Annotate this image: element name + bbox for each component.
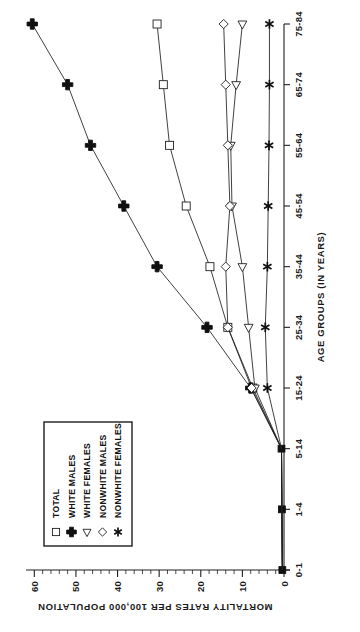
x-tick-label: 45-54 xyxy=(293,193,304,219)
series-line xyxy=(265,24,282,570)
series-nonwhite-males xyxy=(219,19,282,570)
square-marker xyxy=(153,20,161,28)
plus-marker xyxy=(119,201,129,211)
marker-triangle-left-open xyxy=(244,324,253,332)
plus-marker xyxy=(202,322,212,332)
legend: TOTALWHITE MALESWHITE FEMALESNONWHITE MA… xyxy=(44,422,132,546)
diamond-marker xyxy=(221,80,230,89)
x-tick-label: 1-4 xyxy=(293,502,304,517)
marker-asterisk xyxy=(264,201,272,211)
x-tick-label: 55-64 xyxy=(293,132,304,158)
marker-triangle-left-open xyxy=(232,82,241,90)
series-line xyxy=(224,24,283,570)
x-tick-label: 15-24 xyxy=(293,375,304,401)
marker-diamond-open xyxy=(221,80,230,89)
marker-asterisk xyxy=(265,80,273,90)
series-total xyxy=(153,20,286,573)
marker-asterisk xyxy=(263,262,271,272)
plus-marker xyxy=(152,261,162,271)
rotated-figure-container: 0-11-45-1415-2425-3435-4445-5455-6465-74… xyxy=(0,0,360,632)
marker-asterisk xyxy=(263,383,271,393)
marker-plus xyxy=(202,322,212,332)
marker-square-open xyxy=(52,528,59,535)
marker-square-open xyxy=(182,202,190,210)
y-tick-label: 30 xyxy=(154,581,165,592)
marker-asterisk xyxy=(265,19,273,29)
square-marker xyxy=(182,202,190,210)
marker-asterisk xyxy=(261,323,269,333)
marker-plus xyxy=(85,140,95,150)
series-nonwhite-females xyxy=(261,19,282,570)
marker-square-open xyxy=(206,263,214,271)
triangle-marker xyxy=(244,324,253,332)
marker-plus xyxy=(27,19,37,29)
legend-label: TOTAL xyxy=(51,489,61,518)
plus-marker xyxy=(85,140,95,150)
marker-plus xyxy=(62,79,72,89)
marker-triangle-left-open xyxy=(238,21,247,29)
x-tick-label: 0-1 xyxy=(293,562,304,577)
marker-plus xyxy=(119,201,129,211)
marker-diamond-open xyxy=(221,262,230,271)
triangle-marker xyxy=(232,82,241,90)
series-line xyxy=(231,24,283,570)
chart-figure: 0-11-45-1415-2425-3435-4445-5455-6465-74… xyxy=(0,0,360,632)
y-axis-title: MORTALITY RATES PER 100,000 POPULATION xyxy=(38,602,273,613)
series-line xyxy=(157,24,282,570)
legend-label: NONWHITE MALES xyxy=(98,435,108,518)
y-tick-label: 20 xyxy=(195,581,206,592)
diamond-marker xyxy=(221,262,230,271)
series-white-females xyxy=(226,21,282,570)
y-tick-label: 10 xyxy=(237,581,248,592)
square-marker xyxy=(166,141,174,149)
marker-square-open xyxy=(166,141,174,149)
y-tick-label: 60 xyxy=(29,581,40,592)
x-axis-title: AGE GROUPS (IN YEARS) xyxy=(315,232,326,363)
marker-asterisk xyxy=(265,141,273,151)
marker-plus xyxy=(152,261,162,271)
mortality-rate-line-chart: 0-11-45-1415-2425-3435-4445-5455-6465-74… xyxy=(0,0,360,632)
plus-marker xyxy=(62,79,72,89)
x-tick-label: 75-84 xyxy=(293,11,304,37)
plus-marker xyxy=(27,19,37,29)
x-tick-label: 35-44 xyxy=(293,254,304,280)
triangle-marker xyxy=(238,21,247,29)
marker-diamond-open xyxy=(219,19,228,28)
marker-square-open xyxy=(159,81,167,89)
legend-label: WHITE MALES xyxy=(67,455,77,518)
x-tick-label: 25-34 xyxy=(293,314,304,340)
triangle-marker xyxy=(238,264,247,272)
y-tick-label: 0 xyxy=(279,581,290,586)
square-marker xyxy=(159,81,167,89)
square-marker xyxy=(206,263,214,271)
x-tick-label: 5-14 xyxy=(293,438,304,458)
square-marker xyxy=(52,528,59,535)
marker-square-open xyxy=(153,20,161,28)
y-tick-label: 50 xyxy=(70,581,81,592)
marker-triangle-left-open xyxy=(238,264,247,272)
legend-label: WHITE FEMALES xyxy=(82,443,92,518)
diamond-marker xyxy=(219,19,228,28)
legend-label: NONWHITE FEMALES xyxy=(113,423,123,518)
x-tick-label: 65-74 xyxy=(293,72,304,98)
y-tick-label: 40 xyxy=(112,581,123,592)
